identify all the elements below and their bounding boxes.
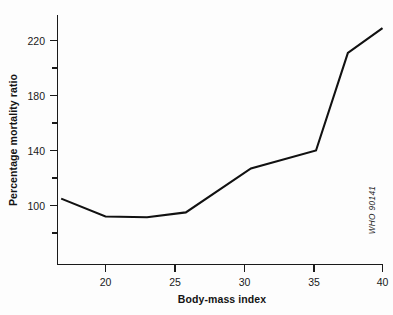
y-tick-label-140: 140 xyxy=(27,145,45,157)
x-tick-label-35: 35 xyxy=(308,276,320,288)
y-tick-label-180: 180 xyxy=(27,90,45,102)
who-credit-label: WHO 90141 xyxy=(368,186,377,235)
chart-background xyxy=(0,0,393,315)
y-axis-title: Percentage mortality ratio xyxy=(7,74,19,206)
x-tick-label-30: 30 xyxy=(239,276,251,288)
x-tick-label-25: 25 xyxy=(169,276,181,288)
y-tick-label-220: 220 xyxy=(27,35,45,47)
chart-figure: 220 180 140 100 20 25 30 35 40 Body-mass… xyxy=(0,0,393,315)
x-tick-label-20: 20 xyxy=(100,276,112,288)
x-axis-title: Body-mass index xyxy=(178,293,267,305)
x-tick-label-40: 40 xyxy=(377,276,389,288)
line-chart: 220 180 140 100 20 25 30 35 40 Body-mass… xyxy=(0,0,393,315)
y-tick-label-100: 100 xyxy=(27,200,45,212)
